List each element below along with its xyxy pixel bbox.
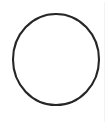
- figure-canvas: [0, 0, 108, 129]
- figure-background: [0, 0, 108, 129]
- right-edge-artifact-line: [104, 2, 105, 122]
- circle-figure: [0, 0, 108, 129]
